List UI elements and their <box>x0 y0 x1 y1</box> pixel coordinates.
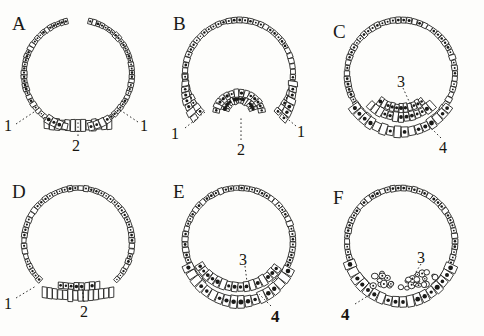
panel-letter-f: F <box>333 188 344 207</box>
panel-e: E34 <box>161 168 322 336</box>
panel-letter-e: E <box>173 182 185 201</box>
panel-letter-c: C <box>333 22 346 41</box>
panel-letter-a: A <box>12 14 26 33</box>
ref-label-4: 4 <box>439 140 447 156</box>
ref-label-1: 1 <box>297 124 305 140</box>
ref-label-4: 4 <box>271 308 280 325</box>
ref-label-1: 1 <box>171 126 179 142</box>
panel-b: B112 <box>161 0 322 168</box>
leader-line <box>16 112 34 124</box>
panel-a: A112 <box>0 0 161 168</box>
ref-label-4: 4 <box>341 306 350 323</box>
ref-label-3: 3 <box>417 250 425 266</box>
ref-label-2: 2 <box>237 142 245 158</box>
leader-line <box>245 266 247 282</box>
leader-line <box>120 110 138 122</box>
panel-d: D12 <box>0 168 161 336</box>
ref-label-1: 1 <box>140 118 148 134</box>
ref-label-3: 3 <box>239 252 247 268</box>
ref-label-1: 1 <box>4 296 12 312</box>
leader-line <box>355 294 371 304</box>
leader-line <box>16 286 36 298</box>
panel-c: C34 <box>323 0 484 168</box>
figure-plate: A112B112C34D12E34F34 <box>0 0 484 336</box>
ref-label-1: 1 <box>4 118 12 134</box>
ref-label-2: 2 <box>80 304 88 320</box>
ref-label-2: 2 <box>72 138 80 154</box>
panel-f: F34 <box>323 168 484 336</box>
ref-label-3: 3 <box>397 74 405 90</box>
panel-letter-b: B <box>173 14 186 33</box>
panel-letter-d: D <box>12 182 26 201</box>
